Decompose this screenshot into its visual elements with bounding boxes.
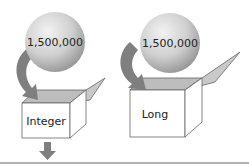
integer-scenario: 1,500,000 Integer [17, 12, 106, 160]
data-type-diagram: 1,500,000 Integer 1,500,000 Long [0, 0, 249, 166]
long-box-label: Long [142, 108, 169, 121]
overflow-down-arrow-icon [39, 142, 56, 160]
long-scenario: 1,500,000 Long [120, 13, 240, 137]
integer-box-label: Integer [26, 115, 66, 128]
long-value-label: 1,500,000 [142, 37, 198, 50]
integer-value-label: 1,500,000 [27, 36, 83, 49]
